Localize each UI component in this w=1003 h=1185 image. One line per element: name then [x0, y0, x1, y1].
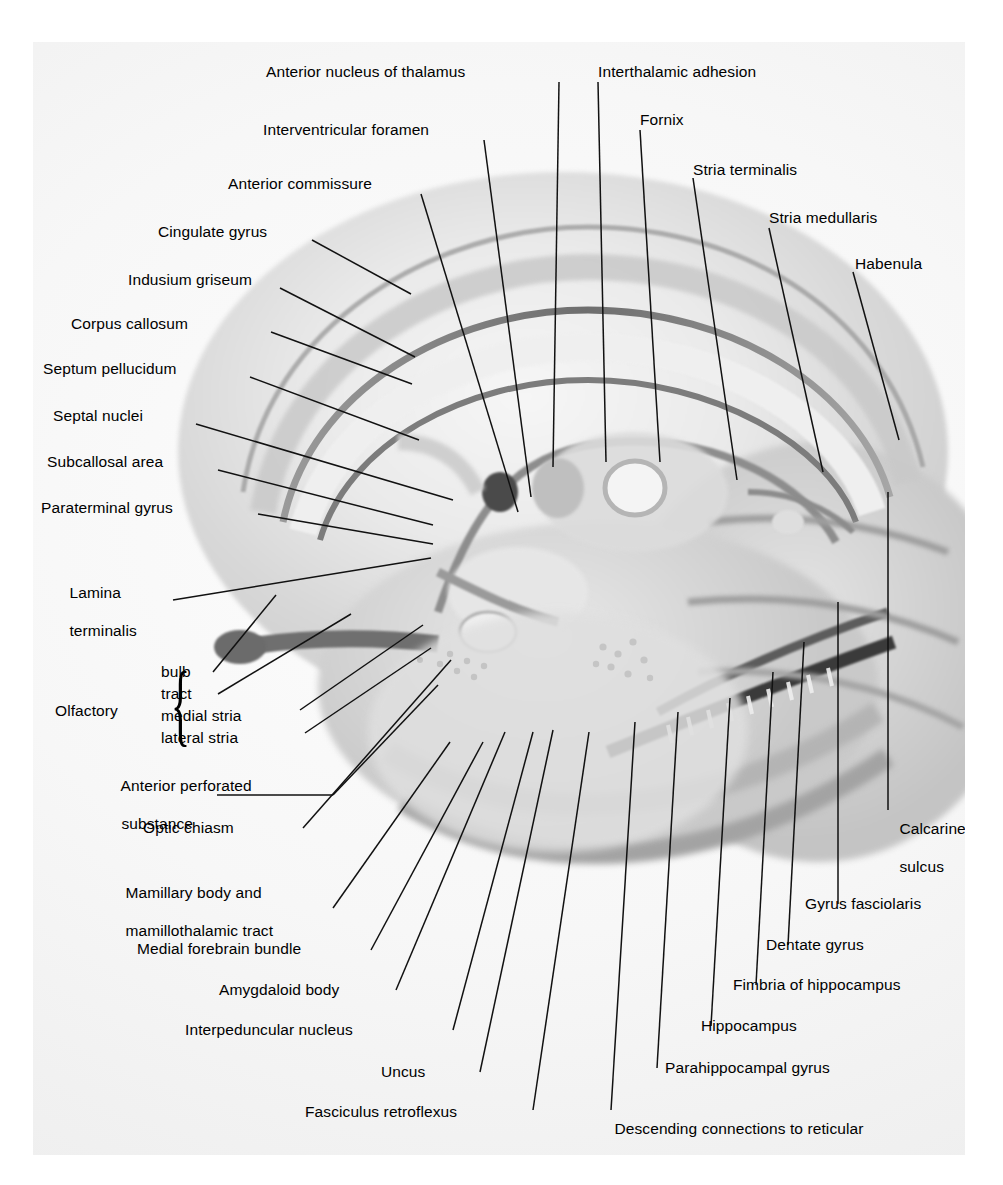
leader-interventricular-foramen — [484, 140, 531, 497]
leader-subcallosal-area — [218, 470, 433, 525]
scanned-plate: Anterior nucleus of thalamus Interventri… — [33, 42, 965, 1155]
label-lamina-terminalis: Lamina terminalis — [43, 564, 137, 659]
leader-interthalamic-adhesion — [598, 82, 606, 462]
label-anterior-commissure: Anterior commissure — [228, 174, 372, 193]
leader-indusium-griseum — [280, 288, 415, 357]
label-septum-pellucidum: Septum pellucidum — [43, 359, 177, 378]
label-gyrus-fasciolaris: Gyrus fasciolaris — [805, 894, 921, 913]
leader-olfactory-medial-stria — [300, 625, 423, 710]
leader-medial-forebrain-bundle — [371, 742, 483, 950]
label-anterior-perforated-substance: Anterior perforated substance — [95, 757, 252, 852]
anatomy-figure: Anterior nucleus of thalamus Interventri… — [0, 0, 1003, 1185]
label-descending-connections: Descending connections to reticular and … — [588, 1100, 864, 1155]
label-interthalamic-adhesion: Interthalamic adhesion — [598, 62, 756, 81]
leader-fornix — [640, 130, 660, 462]
leader-anterior-commissure — [421, 194, 518, 512]
label-olfactory-lateral-stria: lateral stria — [161, 728, 238, 747]
leader-cingulate-gyrus — [312, 240, 411, 294]
label-subcallosal-area: Subcallosal area — [47, 452, 163, 471]
label-medial-forebrain-bundle: Medial forebrain bundle — [137, 939, 301, 958]
label-olfactory-bulb: bulb — [161, 662, 191, 681]
label-hippocampus: Hippocampus — [701, 1016, 797, 1035]
label-habenula: Habenula — [855, 254, 922, 273]
leader-olfactory-tract — [218, 614, 351, 694]
leader-lamina-terminalis — [173, 558, 431, 600]
label-olfactory-medial-stria: medial stria — [161, 706, 241, 725]
label-descending-line1: Descending connections to reticular — [614, 1120, 863, 1137]
label-paraterminal-gyrus: Paraterminal gyrus — [41, 498, 173, 517]
label-mamillary-line2: mamillothalamic tract — [125, 922, 273, 939]
label-anterior-nucleus-of-thalamus: Anterior nucleus of thalamus — [266, 62, 465, 81]
leader-olfactory-bulb — [213, 595, 276, 672]
leader-anterior-nucleus-of-thalamus — [553, 82, 559, 467]
label-cingulate-gyrus: Cingulate gyrus — [158, 222, 267, 241]
label-indusium-griseum: Indusium griseum — [128, 270, 252, 289]
leader-olfactory-lateral-stria — [305, 648, 431, 733]
label-anterior-perforated-line1: Anterior perforated — [121, 777, 252, 794]
label-calcarine-line1: Calcarine — [899, 820, 965, 837]
leader-septum-pellucidum — [250, 377, 419, 440]
leader-fasciculus-retroflexus — [533, 732, 589, 1110]
label-uncus: Uncus — [381, 1062, 425, 1081]
label-fornix: Fornix — [640, 110, 684, 129]
leader-anterior-perforated-substance-elbow — [333, 685, 438, 795]
leader-septal-nuclei — [196, 424, 453, 500]
leader-stria-medullaris — [769, 228, 823, 472]
label-olfactory-tract: tract — [161, 684, 192, 703]
label-olfactory: Olfactory — [55, 701, 118, 720]
label-parahippocampal-gyrus: Parahippocampal gyrus — [665, 1058, 830, 1077]
label-mamillary-line1: Mamillary body and — [125, 884, 261, 901]
label-interpeduncular-nucleus: Interpeduncular nucleus — [185, 1020, 353, 1039]
label-septal-nuclei: Septal nuclei — [53, 406, 143, 425]
label-amygdaloid-body: Amygdaloid body — [219, 980, 339, 999]
label-calcarine-sulcus: Calcarine sulcus — [873, 800, 965, 895]
label-calcarine-line2: sulcus — [899, 858, 944, 875]
label-lamina-terminalis-line1: Lamina — [69, 584, 120, 601]
label-fimbria-of-hippocampus: Fimbria of hippocampus — [733, 975, 901, 994]
label-lamina-terminalis-line2: terminalis — [69, 622, 136, 639]
label-stria-terminalis: Stria terminalis — [693, 160, 797, 179]
leader-stria-terminalis — [693, 178, 737, 480]
leader-amygdaloid-body — [396, 732, 505, 990]
leader-dentate-gyrus — [788, 642, 804, 945]
label-fasciculus-retroflexus: Fasciculus retroflexus — [305, 1102, 457, 1121]
leader-parahippocampal-gyrus — [657, 712, 678, 1068]
label-corpus-callosum: Corpus callosum — [71, 314, 188, 333]
label-optic-chiasm: Optic chiasm — [143, 818, 234, 837]
leader-uncus — [480, 730, 553, 1072]
leader-mamillary-body — [333, 742, 450, 908]
label-dentate-gyrus: Dentate gyrus — [766, 935, 864, 954]
leader-habenula — [853, 272, 899, 440]
label-stria-medullaris: Stria medullaris — [769, 208, 877, 227]
label-interventricular-foramen: Interventricular foramen — [263, 120, 429, 139]
leader-descending-connections — [611, 722, 635, 1110]
leader-hippocampus — [711, 698, 730, 1026]
leader-corpus-callosum — [271, 332, 412, 384]
